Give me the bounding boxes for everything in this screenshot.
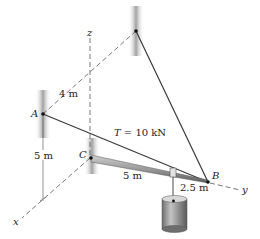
z-axis-label: z	[86, 27, 93, 38]
dimension-2.5m-label: 2.5 m	[180, 182, 209, 193]
point-top-anchor	[134, 29, 138, 33]
collar	[170, 168, 176, 177]
dimension-4m-label: 4 m	[59, 88, 79, 99]
point-C-dot	[89, 156, 93, 160]
tension-label: T = 10 kN	[114, 127, 166, 138]
point-B-label: B	[211, 170, 219, 181]
dimension-5m-rod-label: 5 m	[123, 170, 143, 181]
point-C-label: C	[79, 149, 87, 160]
tension-value: = 10 kN	[121, 127, 167, 138]
diagonal-guide-top-to-A	[43, 31, 136, 114]
cylinder-weight	[162, 196, 187, 233]
y-axis-label: y	[241, 184, 248, 195]
point-A-label: A	[30, 108, 38, 119]
statics-diagram: z x y A C B 4 m 5 m 5 m 2.5 m T = 10 kN	[0, 0, 260, 239]
dimension-5m-height-label: 5 m	[34, 150, 54, 161]
x-axis	[22, 158, 90, 218]
point-A-dot	[41, 112, 45, 116]
y-axis	[210, 183, 240, 190]
rod-CB	[91, 155, 208, 183]
cable-top-to-B	[136, 31, 208, 182]
x-axis-label: x	[13, 216, 19, 227]
